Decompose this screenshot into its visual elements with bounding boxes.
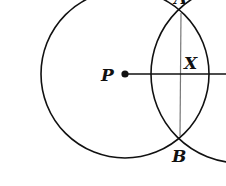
label-a: A bbox=[172, 0, 187, 8]
diagram-canvas: P X B A bbox=[0, 0, 226, 186]
point-p bbox=[121, 70, 128, 77]
circle-p bbox=[41, 0, 209, 158]
geometry-figure: P X B A bbox=[0, 0, 226, 186]
circle-right bbox=[151, 0, 226, 163]
label-b: B bbox=[171, 146, 186, 166]
label-p: P bbox=[100, 65, 115, 85]
label-x: X bbox=[183, 53, 198, 73]
